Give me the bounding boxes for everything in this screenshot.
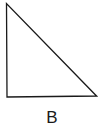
figure-label: B <box>0 108 98 128</box>
triangle-shape <box>7 4 97 98</box>
